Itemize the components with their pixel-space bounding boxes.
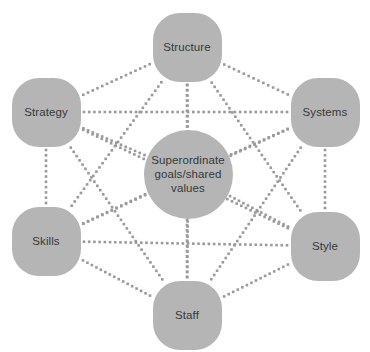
node-structure[interactable]: Structure [153, 13, 222, 82]
node-skills[interactable]: Skills [12, 207, 81, 276]
node-superordinate-goals-shared-values-label: Superordinate goals/shared values [148, 153, 228, 195]
node-systems[interactable]: Systems [291, 78, 360, 147]
node-structure-label: Structure [160, 40, 214, 54]
node-style-label: Style [309, 239, 341, 253]
node-strategy[interactable]: Strategy [12, 78, 81, 147]
node-skills-label: Skills [29, 234, 62, 248]
node-staff[interactable]: Staff [153, 281, 222, 350]
node-strategy-label: Strategy [21, 105, 71, 119]
node-style[interactable]: Style [291, 212, 360, 281]
seven-s-framework-diagram: Structure Strategy Systems Superordinate… [0, 0, 370, 352]
node-systems-label: Systems [300, 105, 351, 119]
node-staff-label: Staff [172, 308, 202, 322]
node-superordinate-goals-shared-values[interactable]: Superordinate goals/shared values [144, 130, 233, 219]
